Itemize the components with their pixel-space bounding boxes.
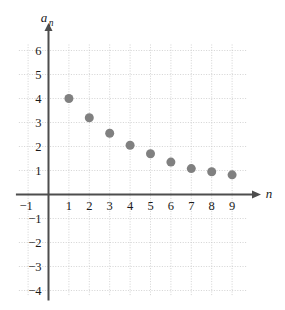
y-axis-title-subscript: n: [49, 18, 54, 28]
y-tick-label: 2: [35, 140, 41, 154]
y-tick-label: −3: [28, 260, 41, 274]
x-tick-label: 6: [168, 199, 174, 213]
y-tick-label: −1: [28, 212, 41, 226]
y-tick-label: 4: [35, 92, 42, 106]
data-point-marker: [64, 94, 73, 103]
y-tick-label: −4: [28, 284, 42, 298]
data-point-marker: [207, 167, 216, 176]
data-point-marker: [85, 113, 94, 122]
x-tick-label: 7: [188, 199, 194, 213]
data-point-marker: [126, 141, 135, 150]
y-tick-label: 3: [35, 116, 41, 130]
data-point-marker: [105, 129, 114, 138]
x-tick-label: 4: [127, 199, 134, 213]
y-tick-label: −2: [28, 236, 41, 250]
y-axis-title-base: a: [41, 10, 48, 25]
y-tick-label: 6: [35, 44, 41, 58]
x-tick-label: −1: [19, 199, 32, 213]
y-tick-label: 1: [35, 164, 41, 178]
y-tick-label: 5: [35, 68, 41, 82]
data-point-marker: [228, 170, 237, 179]
data-point-marker: [146, 149, 155, 158]
x-tick-label: 9: [229, 199, 235, 213]
x-axis-title: n: [266, 186, 273, 201]
x-tick-label: 1: [66, 199, 72, 213]
x-tick-label: 8: [209, 199, 215, 213]
chart-canvas: −1123456789 654321−1−2−3−4 a n n: [0, 0, 285, 310]
chart-background: [0, 0, 285, 310]
x-tick-label: 5: [147, 199, 153, 213]
x-axis-title-label: n: [266, 186, 273, 201]
x-tick-label: 2: [86, 199, 92, 213]
data-point-marker: [166, 158, 175, 167]
sequence-scatter-figure: −1123456789 654321−1−2−3−4 a n n: [0, 0, 285, 310]
data-point-marker: [187, 164, 196, 173]
x-tick-label: 3: [107, 199, 113, 213]
